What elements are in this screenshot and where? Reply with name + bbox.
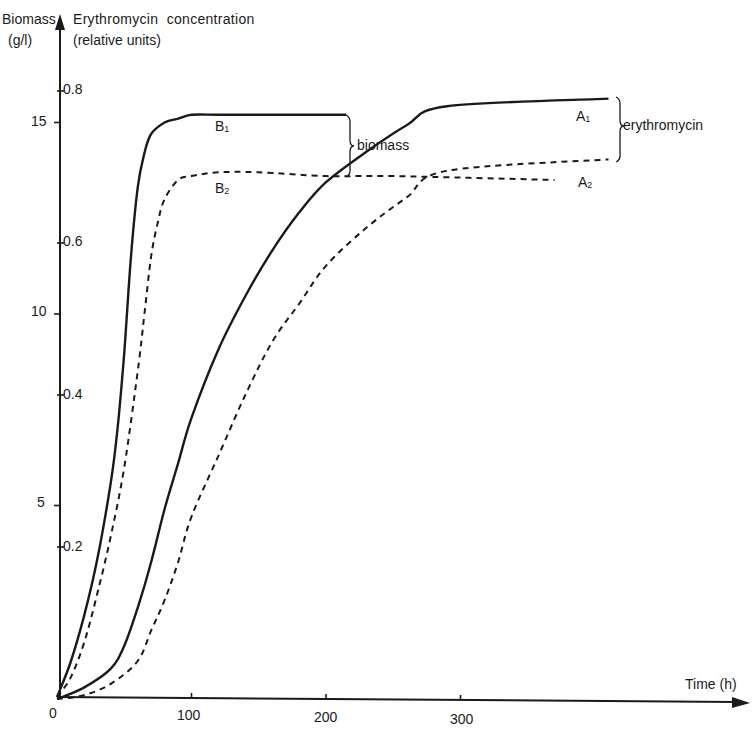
curve-label-b1-letter: B	[215, 118, 224, 134]
curve-label-b2: B2	[215, 180, 229, 196]
y-axis-arrow-icon	[55, 14, 65, 30]
y-left-unit: (g/l)	[8, 32, 32, 48]
x-title: Time (h)	[685, 676, 737, 692]
x-tick-300: 300	[450, 711, 473, 727]
curve-label-a1: A1	[576, 108, 590, 124]
curve-label-b1-sub: 1	[224, 124, 229, 134]
curve-label-b2-sub: 2	[224, 186, 229, 196]
chart-canvas	[0, 0, 755, 729]
y-right-unit: (relative units)	[73, 32, 161, 48]
curve-label-a2-sub: 2	[587, 180, 592, 190]
erythromycin-tick-0.2: 0.2	[63, 538, 82, 554]
y-right-title: Erythromycin concentration	[73, 11, 255, 27]
biomass-tick-5: 5	[37, 494, 45, 510]
erythromycin-tick-0.6: 0.6	[63, 233, 82, 249]
curves	[57, 99, 609, 699]
erythromycin-tick-0.4: 0.4	[63, 386, 82, 402]
biomass-tick-10: 10	[31, 303, 47, 319]
erythromycin-annotation: erythromycin	[623, 117, 703, 133]
erythromycin-tick-0.8: 0.8	[63, 81, 82, 97]
x-axis-arrow-icon	[732, 697, 750, 708]
axis-ticks	[54, 91, 461, 701]
x-tick-100: 100	[177, 707, 200, 723]
curve-label-b2-letter: B	[215, 180, 224, 196]
curve-label-a2-letter: A	[578, 174, 587, 190]
biomass-brace	[346, 115, 354, 177]
biomass-tick-15: 15	[31, 113, 47, 129]
curve-label-a1-sub: 1	[585, 114, 590, 124]
biomass-annotation: biomass	[357, 137, 409, 153]
curve-a1	[57, 99, 609, 699]
x-tick-0: 0	[49, 705, 57, 721]
curve-label-a2: A2	[578, 174, 592, 190]
x-tick-200: 200	[314, 709, 337, 725]
curve-label-a1-letter: A	[576, 108, 585, 124]
curve-label-b1: B1	[215, 118, 229, 134]
curve-b1	[57, 115, 346, 697]
y-left-title: Biomass	[2, 11, 56, 27]
x-axis	[57, 697, 735, 702]
curve-a2	[57, 159, 609, 699]
